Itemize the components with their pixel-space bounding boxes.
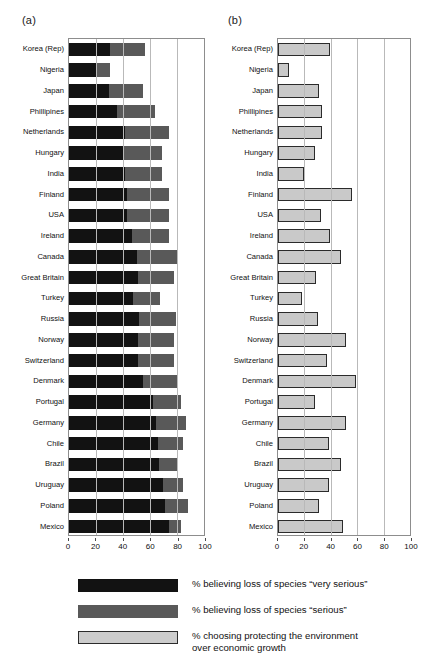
category-label: Hungary — [35, 149, 64, 157]
bar-row: Portugal — [278, 395, 410, 409]
axis-tick-label: 60 — [146, 542, 155, 551]
bar-row: Uruguay — [69, 478, 204, 492]
category-label: Phillipines — [239, 108, 273, 116]
bar — [69, 333, 188, 347]
bar — [69, 63, 143, 77]
bar-segment-0 — [278, 63, 289, 77]
category-label: Netherlands — [232, 129, 273, 137]
bar-segment-1 — [138, 333, 174, 347]
legend-item-serious: % believing loss of species “serious” — [78, 604, 347, 618]
bar-row: Finland — [69, 188, 204, 202]
bar-segment-1 — [158, 437, 183, 451]
category-label: Switzerland — [234, 357, 273, 365]
bar-row: Phillipines — [278, 105, 410, 119]
category-label: USA — [48, 212, 64, 220]
axis-tick — [277, 538, 278, 541]
category-label: Great Britain — [21, 274, 64, 282]
bar-row: Brazil — [278, 458, 410, 472]
bar-row: USA — [69, 209, 204, 223]
panel-a-plot-area: Korea (Rep)NigeriaJapanPhillipinesNether… — [68, 38, 205, 536]
bar — [69, 292, 180, 306]
bar-segment-0 — [278, 354, 327, 368]
bar-segment-1 — [139, 312, 176, 326]
legend-item-environment: % choosing protecting the environment ov… — [78, 630, 358, 653]
bar — [69, 126, 185, 140]
gridline-40 — [331, 39, 332, 535]
bar-segment-1 — [97, 63, 110, 77]
bar-row: Great Britain — [69, 271, 204, 285]
bar-row: Mexico — [278, 520, 410, 534]
category-label: Switzerland — [25, 357, 64, 365]
legend-label-serious: % believing loss of species “serious” — [192, 604, 347, 616]
bar-row: Canada — [278, 250, 410, 264]
category-label: Uruguay — [35, 481, 64, 489]
bar-row: Hungary — [69, 146, 204, 160]
panel-a-rows: Korea (Rep)NigeriaJapanPhillipinesNether… — [69, 39, 204, 535]
bar-segment-0 — [278, 520, 343, 534]
bar-segment-0 — [69, 167, 125, 181]
bar — [69, 229, 185, 243]
bar-segment-0 — [278, 126, 322, 140]
bar-segment-0 — [278, 499, 319, 513]
axis-tick — [331, 538, 332, 541]
bar — [278, 271, 349, 285]
bar — [278, 105, 355, 119]
bar — [69, 520, 192, 534]
axis-tick — [123, 538, 124, 541]
figure: (a) Korea (Rep)NigeriaJapanPhillipinesNe… — [0, 0, 442, 659]
legend-label-very-serious: % believing loss of species “very seriou… — [192, 578, 367, 590]
axis-tick — [357, 538, 358, 541]
bar — [278, 375, 380, 389]
bar — [69, 478, 193, 492]
axis-tick — [205, 538, 206, 541]
bar-segment-1 — [127, 188, 169, 202]
category-label: Norway — [38, 336, 64, 344]
bar-segment-0 — [69, 416, 156, 430]
bar — [278, 312, 351, 326]
bar — [69, 437, 193, 451]
bar-row: Turkey — [278, 292, 410, 306]
category-label: Russia — [41, 315, 64, 323]
legend-swatch-environment — [78, 631, 178, 644]
bar-segment-0 — [278, 333, 346, 347]
bar — [69, 209, 185, 223]
bar-row: Norway — [278, 333, 410, 347]
axis-tick — [68, 538, 69, 541]
bar — [278, 292, 335, 306]
bar — [278, 437, 360, 451]
legend-item-very-serious: % believing loss of species “very seriou… — [78, 578, 367, 592]
bar-row: Brazil — [69, 458, 204, 472]
bar-segment-0 — [278, 375, 356, 389]
bar — [278, 84, 352, 98]
bar — [69, 416, 195, 430]
category-label: Canada — [37, 253, 64, 261]
bar-row: Phillipines — [69, 105, 204, 119]
bar — [278, 478, 360, 492]
bar-row: Germany — [278, 416, 410, 430]
bar-row: Norway — [69, 333, 204, 347]
category-label: Korea (Rep) — [232, 46, 273, 54]
category-label: Hungary — [244, 149, 273, 157]
bar-segment-0 — [69, 458, 159, 472]
category-label: Ireland — [250, 232, 273, 240]
bar-row: Canada — [69, 250, 204, 264]
bar-segment-0 — [69, 375, 143, 389]
bar-row: India — [278, 167, 410, 181]
bar-row: Japan — [69, 84, 204, 98]
bar-row: Great Britain — [278, 271, 410, 285]
bar-row: Netherlands — [69, 126, 204, 140]
bar-segment-0 — [69, 437, 158, 451]
bar — [69, 458, 191, 472]
bar-segment-1 — [110, 43, 145, 57]
category-label: Finland — [248, 191, 273, 199]
legend-swatch-very-serious — [78, 579, 178, 592]
bar-segment-1 — [125, 167, 162, 181]
axis-tick-label: 0 — [66, 542, 70, 551]
bar-row: Japan — [278, 84, 410, 98]
axis-tick-label: 40 — [326, 542, 335, 551]
bar-segment-0 — [69, 395, 153, 409]
bar — [278, 499, 352, 513]
bar — [69, 395, 192, 409]
bar — [278, 188, 377, 202]
bar-segment-0 — [69, 250, 137, 264]
